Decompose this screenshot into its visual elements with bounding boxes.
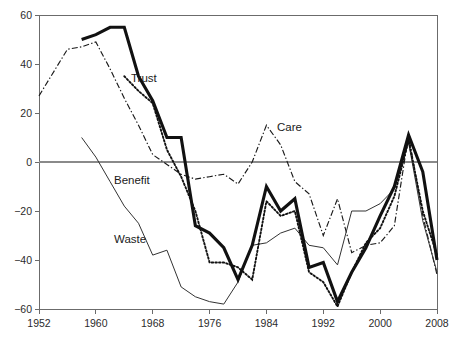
chart-container: −60−40−200204060 19521960196819761984199… <box>0 0 454 339</box>
x-tick-label: 1992 <box>312 317 336 329</box>
x-tick-label: 2000 <box>368 317 392 329</box>
y-tick-label: 40 <box>20 58 32 70</box>
y-tick-label: −20 <box>14 205 32 217</box>
y-axis-ticks: −60−40−200204060 <box>14 9 39 315</box>
series-annotations: TrustCareBenefitWaste <box>114 72 302 245</box>
series-label-care: Care <box>277 121 302 133</box>
x-tick-label: 2008 <box>425 317 449 329</box>
y-tick-label: −60 <box>14 303 32 315</box>
y-tick-label: 60 <box>20 9 32 21</box>
series-line-trust <box>82 27 437 301</box>
x-tick-label: 1960 <box>84 317 108 329</box>
y-tick-label: 20 <box>20 107 32 119</box>
line-chart: −60−40−200204060 19521960196819761984199… <box>0 0 454 339</box>
x-tick-label: 1968 <box>141 317 165 329</box>
series-label-waste: Waste <box>114 233 146 245</box>
series-label-benefit: Benefit <box>114 174 151 186</box>
x-axis-ticks: 19521960196819761984199220002008 <box>27 309 449 329</box>
y-tick-label: 0 <box>26 156 32 168</box>
x-tick-label: 1984 <box>255 317 279 329</box>
series-line-benefit <box>124 76 437 306</box>
series-line-care <box>39 42 437 275</box>
x-tick-label: 1976 <box>198 317 222 329</box>
data-series-group <box>39 27 437 306</box>
series-label-trust: Trust <box>131 72 158 84</box>
x-tick-label: 1952 <box>27 317 51 329</box>
y-tick-label: −40 <box>14 254 32 266</box>
